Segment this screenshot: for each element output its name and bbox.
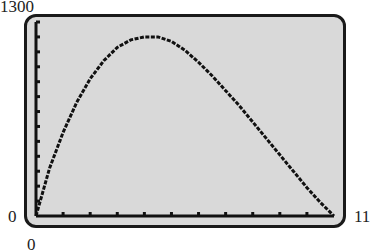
data-curve (36, 37, 334, 216)
plot-area (0, 0, 375, 251)
